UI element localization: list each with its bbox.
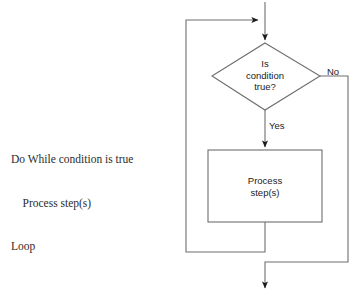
process-node-label: Process step(s) xyxy=(232,175,298,198)
pseudocode-line: Loop xyxy=(11,239,133,254)
edge-loopback xyxy=(186,20,265,252)
edge-label-yes: Yes xyxy=(269,120,285,131)
flowchart-figure: Do While condition is true Process step(… xyxy=(0,0,357,306)
edge-label-no: No xyxy=(327,66,339,77)
pseudocode-line: Process step(s) xyxy=(11,196,133,211)
pseudocode-line: Do While condition is true xyxy=(11,152,133,167)
pseudocode-block: Do While condition is true Process step(… xyxy=(11,123,133,283)
figure-caption xyxy=(0,297,357,306)
decision-node-label: Is condition true? xyxy=(232,58,298,93)
